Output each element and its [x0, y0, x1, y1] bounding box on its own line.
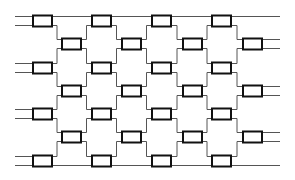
gate-box: [152, 156, 171, 167]
wire: [202, 73, 212, 87]
gate-box: [243, 86, 262, 97]
wire: [202, 119, 212, 133]
wire: [231, 49, 243, 64]
wire: [231, 73, 243, 87]
wire: [141, 49, 152, 64]
wire: [81, 142, 92, 157]
gate-box: [183, 39, 202, 50]
gate-box: [92, 156, 111, 167]
wire: [52, 49, 62, 64]
gate-box: [62, 39, 81, 50]
gate-box: [92, 109, 111, 120]
wire: [171, 73, 183, 87]
gate-box: [33, 16, 52, 27]
gate-box: [243, 132, 262, 143]
gate-box: [62, 86, 81, 97]
wire: [52, 96, 62, 110]
wire: [231, 26, 243, 40]
gate-box: [33, 63, 52, 74]
gate-box: [62, 132, 81, 143]
wire: [111, 26, 122, 40]
wire: [111, 73, 122, 87]
brickwork-network-diagram: [0, 0, 295, 180]
gate-box: [122, 39, 141, 50]
wire: [141, 142, 152, 157]
gate-box: [92, 63, 111, 74]
gate-box: [33, 109, 52, 120]
wire: [111, 96, 122, 110]
wire: [171, 49, 183, 64]
gate-box: [152, 109, 171, 120]
wire: [202, 49, 212, 64]
gate-box: [122, 132, 141, 143]
wires: [15, 17, 280, 166]
wire: [202, 142, 212, 157]
gate-box: [212, 16, 231, 27]
wire: [141, 26, 152, 40]
gate-box: [122, 86, 141, 97]
wire: [81, 73, 92, 87]
wire: [231, 96, 243, 110]
wire: [111, 142, 122, 157]
gate-box: [152, 63, 171, 74]
wire: [202, 26, 212, 40]
wire: [141, 73, 152, 87]
wire: [81, 119, 92, 133]
gate-box: [243, 39, 262, 50]
wire: [231, 119, 243, 133]
gate-box: [183, 132, 202, 143]
wire: [111, 49, 122, 64]
wire: [52, 26, 62, 40]
wire: [81, 26, 92, 40]
wire: [81, 49, 92, 64]
gate-box: [92, 16, 111, 27]
wire: [171, 119, 183, 133]
wire: [81, 96, 92, 110]
wire: [231, 142, 243, 157]
wire: [141, 119, 152, 133]
wire: [171, 96, 183, 110]
wire: [171, 142, 183, 157]
gate-box: [212, 109, 231, 120]
wire: [141, 96, 152, 110]
wire: [171, 26, 183, 40]
gate-box: [183, 86, 202, 97]
wire: [52, 73, 62, 87]
gate-box: [212, 63, 231, 74]
wire: [202, 96, 212, 110]
gate-box: [152, 16, 171, 27]
gate-boxes: [33, 16, 262, 167]
wire: [52, 119, 62, 133]
gate-box: [33, 156, 52, 167]
wire: [111, 119, 122, 133]
gate-box: [212, 156, 231, 167]
wire: [52, 142, 62, 157]
